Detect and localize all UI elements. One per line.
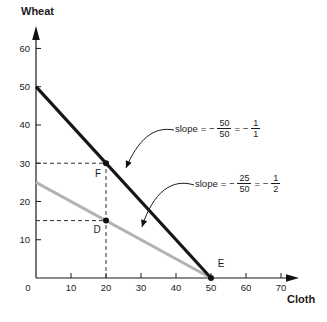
fraction-denominator: 50 xyxy=(237,184,251,194)
x-tick-label: 60 xyxy=(241,282,252,293)
x-tick-label: 50 xyxy=(206,282,217,293)
line-slope-minus-1 xyxy=(36,87,211,278)
y-tick-label: 20 xyxy=(19,196,30,207)
x-tick-label: 40 xyxy=(171,282,182,293)
fraction-numerator: 1 xyxy=(251,118,260,129)
x-tick-label: 0 xyxy=(25,282,30,293)
y-tick-label: 60 xyxy=(19,43,30,54)
y-tick-label: 10 xyxy=(19,234,30,245)
x-tick-label: 10 xyxy=(66,282,77,293)
x-axis-title: Cloth xyxy=(287,293,315,305)
y-axis-arrowhead-icon xyxy=(32,26,40,40)
point-label-E: E xyxy=(218,258,225,269)
fraction: 25 50 xyxy=(237,173,251,195)
point-label-D: D xyxy=(93,224,100,235)
y-tick-label: 50 xyxy=(19,81,30,92)
x-tick-label: 20 xyxy=(101,282,112,293)
y-tick-label: 40 xyxy=(19,119,30,130)
x-tick-label: 70 xyxy=(276,282,287,293)
fraction: 1 1 xyxy=(251,118,260,140)
slope-annotation-steep: slope = − 50 50 = − 1 1 xyxy=(175,118,260,140)
annotation-equals: = − xyxy=(201,123,215,134)
annotation-equals: = − xyxy=(254,178,268,189)
annotation-leader xyxy=(142,183,194,227)
point-label-F: F xyxy=(95,168,101,179)
line-slope-minus-half xyxy=(36,182,211,278)
y-axis-title: Wheat xyxy=(21,5,54,17)
fraction: 1 2 xyxy=(271,173,280,195)
fraction-numerator: 1 xyxy=(271,173,280,184)
annotation-leader xyxy=(126,129,174,168)
point-dot-F xyxy=(103,160,109,166)
annotation-equals: = − xyxy=(234,123,248,134)
fraction-numerator: 25 xyxy=(237,173,251,184)
point-dot-D xyxy=(103,218,109,224)
fraction: 50 50 xyxy=(217,118,231,140)
fraction-denominator: 2 xyxy=(271,184,280,194)
annotation-equals: = − xyxy=(221,178,235,189)
slope-annotation-shallow: slope = − 25 50 = − 1 2 xyxy=(195,173,280,195)
point-dot-E xyxy=(208,275,214,281)
fraction-denominator: 50 xyxy=(217,129,231,139)
annotation-text: slope xyxy=(195,178,218,189)
ppf-chart: 010203040506070102030405060FDE Wheat Clo… xyxy=(0,0,327,322)
annotation-arrowhead-icon xyxy=(141,219,147,227)
x-axis-arrowhead-icon xyxy=(286,274,299,282)
x-tick-label: 30 xyxy=(136,282,147,293)
y-tick-label: 30 xyxy=(19,158,30,169)
fraction-numerator: 50 xyxy=(217,118,231,129)
chart-canvas: 010203040506070102030405060FDE xyxy=(0,0,327,322)
fraction-denominator: 1 xyxy=(251,129,260,139)
annotation-text: slope xyxy=(175,123,198,134)
